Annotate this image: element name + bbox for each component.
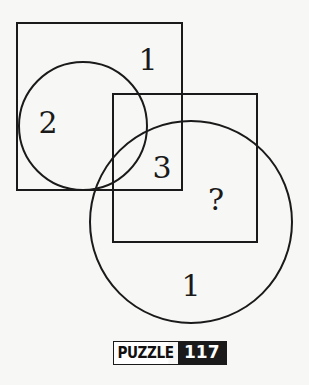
region-label-top-square-only: 1 <box>138 42 157 77</box>
region-label-large-circle-only: 1 <box>181 268 200 303</box>
puzzle-badge: PUZZLE 117 <box>113 341 227 365</box>
region-label-unknown-region: ? <box>208 182 224 217</box>
puzzle-label: PUZZLE <box>114 342 168 364</box>
square-bottom-right <box>113 94 257 242</box>
region-label-squares-overlap-in-large-circle: 3 <box>152 150 171 185</box>
region-label-small-circle-in-square: 2 <box>38 105 57 140</box>
venn-puzzle-diagram: 123?1 <box>0 0 309 385</box>
puzzle-number: 117 <box>178 342 226 364</box>
